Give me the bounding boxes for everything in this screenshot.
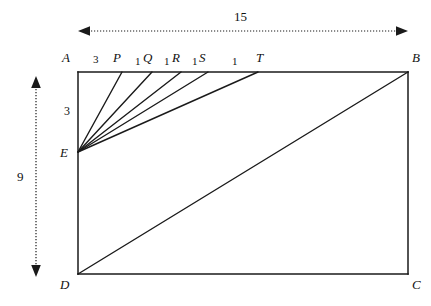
segment-e-r bbox=[78, 72, 181, 152]
width-arrowhead-right bbox=[396, 26, 408, 36]
point-label-t: T bbox=[256, 51, 263, 64]
point-label-e: E bbox=[60, 146, 68, 159]
diagonal-d-b bbox=[78, 72, 408, 274]
segment-e-t bbox=[78, 72, 258, 152]
vertex-label-b: B bbox=[412, 51, 420, 64]
width-dimension-arrow bbox=[78, 26, 408, 36]
segment-e-s bbox=[78, 72, 208, 152]
vertex-label-c: C bbox=[412, 278, 421, 291]
point-label-r: R bbox=[172, 51, 180, 64]
width-dimension-label: 15 bbox=[234, 10, 247, 23]
height-arrowhead-top bbox=[31, 76, 41, 88]
segment-label-ap: 3 bbox=[93, 54, 99, 65]
vertex-label-a: A bbox=[62, 51, 70, 64]
segment-ae-dimension-label: 3 bbox=[64, 105, 70, 117]
fan-lines-from-e bbox=[78, 72, 258, 152]
height-dimension-arrow bbox=[31, 76, 41, 277]
vertex-label-d: D bbox=[60, 278, 70, 291]
segment-label-st: 1 bbox=[232, 56, 238, 67]
height-arrowhead-bottom bbox=[31, 265, 41, 277]
geometry-figure: 15 9 3 A B C D E P Q R S T 3 1 1 1 1 bbox=[0, 0, 431, 306]
width-arrowhead-left bbox=[78, 26, 90, 36]
segment-label-qr: 1 bbox=[164, 56, 170, 67]
point-label-p: P bbox=[113, 51, 121, 64]
segment-label-rs: 1 bbox=[192, 56, 198, 67]
height-dimension-label: 9 bbox=[17, 170, 24, 183]
segment-label-pq: 1 bbox=[135, 56, 141, 67]
point-label-q: Q bbox=[143, 51, 153, 64]
point-label-s: S bbox=[199, 51, 206, 64]
